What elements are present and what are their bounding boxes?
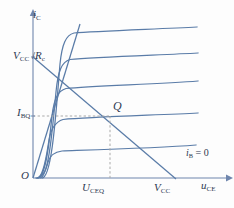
x-axis-label: uCE	[201, 180, 216, 191]
dc-load-line	[33, 57, 176, 179]
y-axis	[30, 9, 36, 178]
x-intercept-label: VCC	[154, 182, 170, 193]
curve-ib-4	[37, 113, 198, 178]
figure-container: iC VCC /Rc IBQ O UCEQ VCC uCE Q iB = 0	[0, 0, 234, 208]
q-point-label: Q	[113, 100, 122, 112]
y-intercept-label: VCC /Rc	[13, 50, 45, 61]
curve-ib-0	[36, 145, 196, 178]
ib-zero-label: iB = 0	[186, 148, 209, 158]
curve-ib-2	[40, 53, 198, 178]
q-current-label: IBQ	[17, 107, 30, 118]
saturation-line	[33, 24, 80, 178]
x-axis-arrow	[226, 175, 233, 182]
origin-label: O	[21, 170, 29, 181]
q-voltage-label: UCEQ	[82, 182, 104, 193]
y-axis-label: iC	[33, 9, 41, 20]
